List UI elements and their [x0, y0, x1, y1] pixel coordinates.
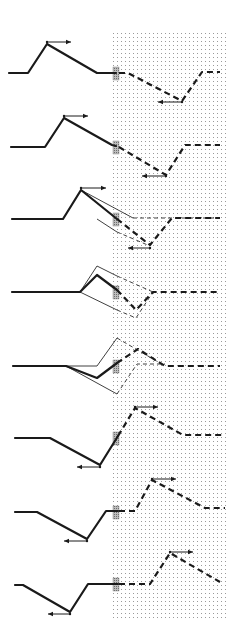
arrow-origin-dot — [169, 551, 171, 553]
component-pulse-line — [66, 366, 117, 394]
incident-pulse — [12, 275, 117, 292]
component-pulse-line — [66, 338, 117, 366]
arrow-origin-dot — [149, 247, 151, 249]
incident-pulse — [11, 118, 116, 147]
arrow-origin-dot — [99, 466, 101, 468]
arrow-origin-dot — [63, 115, 65, 117]
component-pulse-line — [80, 266, 117, 292]
arrow-origin-dot — [46, 41, 48, 43]
boundary-barrier — [113, 141, 119, 154]
arrow-origin-dot — [69, 613, 71, 615]
incident-pulse — [12, 190, 117, 219]
arrow-origin-dot — [80, 187, 82, 189]
diagram-canvas — [0, 0, 245, 639]
wave-reflection-diagram — [0, 0, 245, 639]
arrow-origin-dot — [134, 406, 136, 408]
incident-pulse — [15, 584, 118, 612]
arrow-origin-dot — [181, 101, 183, 103]
incident-pulse — [15, 436, 118, 465]
incident-pulse — [15, 511, 118, 539]
arrow-origin-dot — [151, 478, 153, 480]
boundary-barrier — [113, 506, 119, 519]
incident-pulse — [13, 363, 117, 378]
second-medium-region — [113, 33, 226, 620]
component-pulse-line — [80, 292, 117, 310]
arrow-origin-dot — [86, 540, 88, 542]
arrow-origin-dot — [165, 175, 167, 177]
incident-pulse — [9, 44, 116, 73]
